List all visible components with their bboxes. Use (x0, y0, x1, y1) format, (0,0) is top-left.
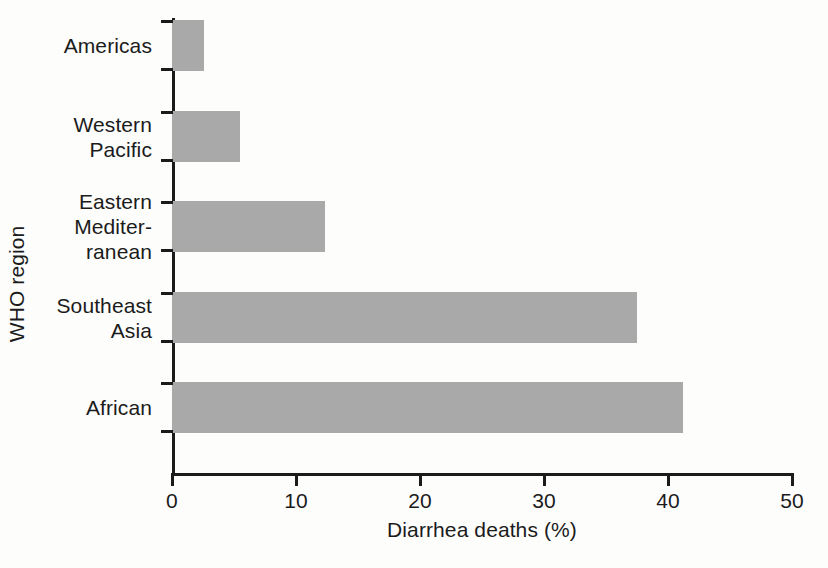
y-tick (161, 249, 173, 252)
chart-figure: WHO region AmericasWestern PacificEaster… (0, 0, 828, 568)
bar-western-pacific (172, 111, 240, 162)
bar-african (172, 382, 683, 433)
y-tick (161, 382, 173, 385)
y-tick (161, 159, 173, 162)
y-tick (161, 201, 173, 204)
y-tick (161, 430, 173, 433)
x-tick-label: 20 (390, 489, 450, 513)
y-tick (161, 292, 173, 295)
y-tick (161, 340, 173, 343)
x-tick (295, 473, 298, 486)
x-tick (543, 473, 546, 486)
x-tick (791, 473, 794, 486)
x-tick (667, 473, 670, 486)
y-tick-label: African (86, 395, 152, 420)
y-tick-label: Americas (64, 33, 152, 58)
x-axis-title: Diarrhea deaths (%) (172, 518, 792, 542)
y-tick (161, 20, 173, 23)
x-tick-label: 30 (514, 489, 574, 513)
bar-americas (172, 20, 204, 71)
y-tick (161, 111, 173, 114)
bar-southeast-asia (172, 292, 637, 343)
bar-eastern-mediter--ranean (172, 201, 325, 252)
x-tick-label: 10 (266, 489, 326, 513)
x-tick-label: 40 (638, 489, 698, 513)
x-tick (171, 473, 174, 486)
x-axis-line (172, 473, 794, 476)
y-tick-label: Eastern Mediter- ranean (74, 189, 152, 264)
y-axis-title: WHO region (0, 0, 34, 568)
x-tick-label: 50 (762, 489, 822, 513)
y-tick-label: Southeast Asia (57, 293, 152, 343)
x-tick (419, 473, 422, 486)
y-tick-label: Western Pacific (73, 112, 152, 162)
y-tick (161, 68, 173, 71)
x-tick-label: 0 (142, 489, 202, 513)
